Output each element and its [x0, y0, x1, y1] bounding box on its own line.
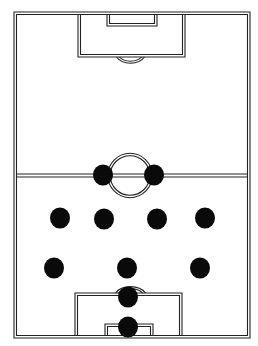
player-marker-goalkeeper: [118, 317, 138, 338]
player-marker-right-midfield: [195, 208, 215, 229]
player-marker-right-back: [190, 258, 210, 279]
player-marker-left-back: [44, 258, 64, 279]
top-goal-box: [110, 15, 155, 24]
player-marker-left-midfield: [50, 208, 70, 229]
player-marker-forward-left: [93, 165, 113, 186]
top-goal-box: [107, 15, 157, 27]
player-marker-centre-midfield-right: [147, 209, 167, 230]
top-penalty-box: [78, 15, 185, 58]
player-marker-centre-back: [117, 258, 137, 279]
top-penalty-arc: [120, 57, 142, 61]
top-penalty-box: [81, 15, 183, 55]
football-pitch-diagram: [0, 0, 258, 346]
player-marker-sweeper: [118, 287, 138, 308]
center-circle: [110, 156, 150, 196]
player-marker-centre-midfield-left: [94, 209, 114, 230]
player-markers: [44, 165, 215, 338]
player-marker-forward-right: [144, 165, 164, 186]
